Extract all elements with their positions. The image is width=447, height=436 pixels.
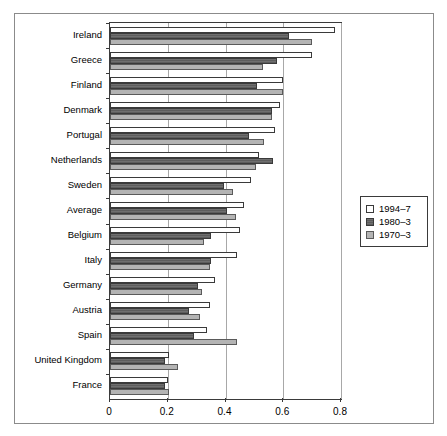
bar-group <box>110 123 341 148</box>
category-label-greece: Greece <box>71 55 102 65</box>
bar-group <box>110 98 341 123</box>
category-tick <box>106 198 110 199</box>
value-tick <box>282 398 283 402</box>
legend-swatch-icon <box>366 205 374 213</box>
category-label-portugal: Portugal <box>67 130 102 140</box>
category-label-spain: Spain <box>78 330 102 340</box>
legend-item-19803[interactable]: 1980–3 <box>366 215 421 228</box>
value-tick-label: 0 <box>106 406 112 417</box>
bar-group <box>110 73 341 98</box>
legend-label: 1970–3 <box>379 229 411 240</box>
bar-belgium-19703 <box>110 239 204 245</box>
bar-group <box>110 148 341 173</box>
value-tick <box>225 398 226 402</box>
bar-group <box>110 48 341 73</box>
legend-label: 1980–3 <box>379 216 411 227</box>
bar-group <box>110 224 341 249</box>
legend-swatch-icon <box>366 218 374 226</box>
category-label-netherlands: Netherlands <box>51 155 102 165</box>
bar-group <box>110 23 341 48</box>
category-tick <box>106 123 110 124</box>
gridline <box>341 23 342 399</box>
category-tick <box>106 224 110 225</box>
bar-netherlands-19703 <box>110 164 256 170</box>
category-tick <box>106 374 110 375</box>
category-label-belgium: Belgium <box>68 230 102 240</box>
category-label-france: France <box>72 380 102 390</box>
category-tick <box>106 299 110 300</box>
plot-area <box>109 22 342 400</box>
category-label-germany: Germany <box>63 280 102 290</box>
category-tick <box>106 98 110 99</box>
bar-group <box>110 324 341 349</box>
bar-group <box>110 374 341 399</box>
category-label-italy: Italy <box>85 255 102 265</box>
chart-figure-frame: IrelandGreeceFinlandDenmarkPortugalNethe… <box>14 13 434 424</box>
bar-sweden-19703 <box>110 189 233 195</box>
value-tick <box>167 398 168 402</box>
value-tick <box>340 398 341 402</box>
category-tick <box>106 148 110 149</box>
category-tick <box>106 48 110 49</box>
value-tick-label: 0.6 <box>275 406 289 417</box>
value-tick <box>109 398 110 402</box>
bar-group <box>110 173 341 198</box>
bar-germany-19703 <box>110 289 202 295</box>
bar-france-19703 <box>110 389 169 395</box>
bar-group <box>110 349 341 374</box>
category-label-united-kingdom: United Kingdom <box>34 355 102 365</box>
legend-swatch-icon <box>366 231 374 239</box>
category-tick <box>106 349 110 350</box>
bar-group <box>110 274 341 299</box>
bar-italy-19703 <box>110 264 210 270</box>
category-label-austria: Austria <box>72 305 102 315</box>
bar-average-19703 <box>110 214 236 220</box>
legend-label: 1994–7 <box>379 203 411 214</box>
category-tick <box>106 173 110 174</box>
bar-rows-group <box>110 23 341 399</box>
bar-united-kingdom-19703 <box>110 364 178 370</box>
bar-greece-19703 <box>110 64 263 70</box>
category-tick <box>106 324 110 325</box>
bar-finland-19703 <box>110 89 283 95</box>
bar-ireland-19703 <box>110 39 312 45</box>
category-tick <box>106 73 110 74</box>
bar-group <box>110 249 341 274</box>
category-label-finland: Finland <box>71 80 102 90</box>
category-label-sweden: Sweden <box>68 180 102 190</box>
value-tick-label: 0.2 <box>160 406 174 417</box>
category-label-denmark: Denmark <box>63 105 102 115</box>
legend-item-19947[interactable]: 1994–7 <box>366 202 421 215</box>
value-tick-label: 0.8 <box>333 406 347 417</box>
category-label-average: Average <box>67 205 102 215</box>
value-tick-label: 0.4 <box>218 406 232 417</box>
chart-legend: 1994–71980–31970–3 <box>360 196 428 247</box>
category-label-ireland: Ireland <box>73 30 102 40</box>
bar-spain-19703 <box>110 339 237 345</box>
bar-group <box>110 198 341 223</box>
bar-group <box>110 299 341 324</box>
bar-denmark-19703 <box>110 114 272 120</box>
bar-austria-19703 <box>110 314 200 320</box>
category-tick <box>106 23 110 24</box>
category-tick <box>106 274 110 275</box>
bar-portugal-19703 <box>110 139 264 145</box>
category-tick <box>106 249 110 250</box>
legend-item-19703[interactable]: 1970–3 <box>366 228 421 241</box>
